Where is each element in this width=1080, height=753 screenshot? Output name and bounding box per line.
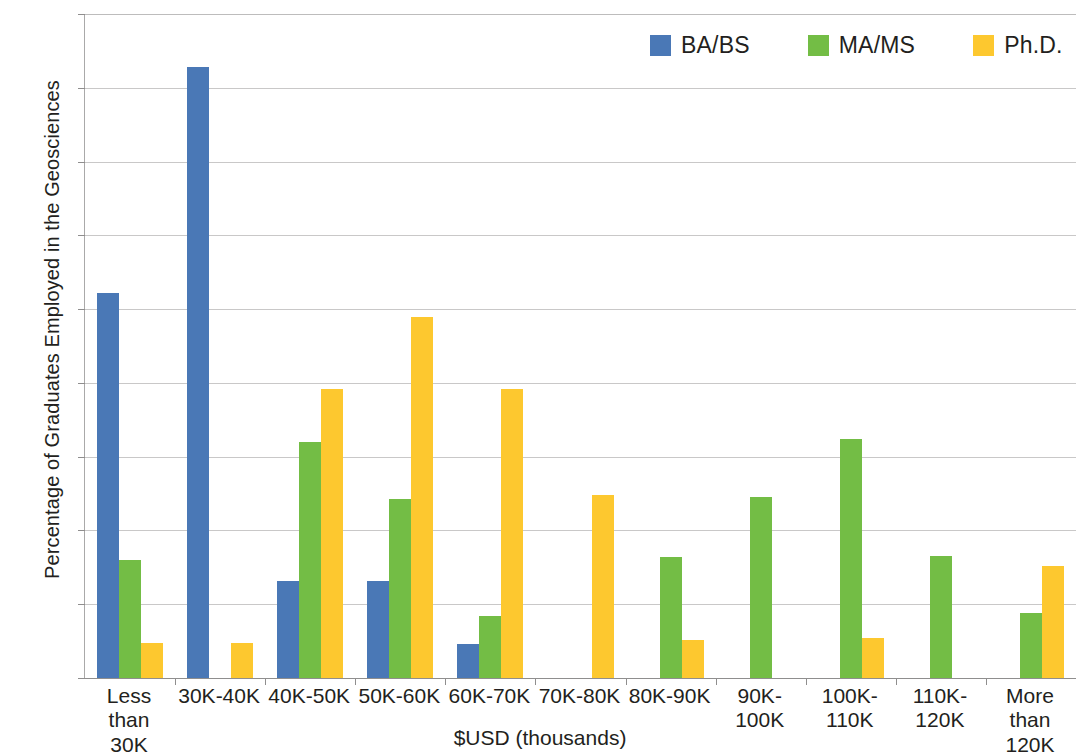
bar-group: [626, 14, 716, 678]
bar-slot: [660, 14, 682, 678]
legend-label: Ph.D.: [1004, 32, 1063, 59]
bar-slot: [389, 14, 411, 678]
y-tick-mark: [78, 14, 85, 15]
bar-group: [265, 14, 355, 678]
bar-slot: [548, 14, 570, 678]
legend-label: BA/BS: [681, 32, 750, 59]
bar-slot: [638, 14, 660, 678]
bar-slot: [728, 14, 750, 678]
bar-ma-ms[interactable]: [119, 560, 141, 678]
bar-slot: [1042, 14, 1064, 678]
bar-slots: [638, 14, 704, 678]
bar-slot: [908, 14, 930, 678]
bar-ma-ms[interactable]: [840, 439, 862, 678]
bar-ba-bs[interactable]: [187, 67, 209, 678]
bar-group: [445, 14, 535, 678]
bar-slot: [952, 14, 974, 678]
bar-slot: [299, 14, 321, 678]
bar-slot: [570, 14, 592, 678]
bar-slot: [141, 14, 163, 678]
y-axis-title: Percentage of Graduates Employed in the …: [41, 10, 64, 650]
bar-chart: BA/BSMA/MSPh.D. Percentage of Graduates …: [0, 0, 1080, 753]
x-axis-label-line: 110K-: [896, 684, 984, 708]
bar-slot: [1020, 14, 1042, 678]
bar-ph-d[interactable]: [141, 643, 163, 678]
bars-layer: [85, 14, 1076, 678]
bar-slot: [277, 14, 299, 678]
bar-slot: [862, 14, 884, 678]
legend-swatch-icon: [650, 35, 671, 56]
bar-ph-d[interactable]: [411, 317, 433, 679]
y-tick-mark: [78, 457, 85, 458]
bar-ba-bs[interactable]: [457, 644, 479, 678]
bar-slot: [231, 14, 253, 678]
bar-group: [355, 14, 445, 678]
bar-slot: [97, 14, 119, 678]
bar-ph-d[interactable]: [321, 389, 343, 678]
bar-ma-ms[interactable]: [930, 556, 952, 678]
bar-ma-ms[interactable]: [389, 499, 411, 678]
y-tick-mark: [78, 162, 85, 163]
bar-group: [896, 14, 986, 678]
bar-slot: [321, 14, 343, 678]
bar-slot: [479, 14, 501, 678]
bar-slot: [930, 14, 952, 678]
bar-slot: [119, 14, 141, 678]
y-tick-mark: [78, 383, 85, 384]
bar-slots: [818, 14, 884, 678]
bar-ma-ms[interactable]: [1020, 613, 1042, 678]
x-axis-label-line: 60K-70K: [445, 684, 533, 708]
bar-slots: [457, 14, 523, 678]
bar-slots: [908, 14, 974, 678]
bar-ba-bs[interactable]: [97, 293, 119, 678]
bar-ph-d[interactable]: [501, 389, 523, 678]
y-tick-mark: [78, 309, 85, 310]
bar-slots: [277, 14, 343, 678]
bar-group: [85, 14, 175, 678]
y-tick-mark: [78, 678, 85, 679]
bar-ma-ms[interactable]: [750, 497, 772, 678]
bar-ba-bs[interactable]: [367, 581, 389, 678]
bar-slots: [998, 14, 1064, 678]
bar-group: [535, 14, 625, 678]
bar-ph-d[interactable]: [1042, 566, 1064, 678]
bar-ma-ms[interactable]: [660, 557, 682, 678]
x-axis-label-line: 50K-60K: [355, 684, 443, 708]
y-tick-mark: [78, 530, 85, 531]
bar-ph-d[interactable]: [862, 638, 884, 678]
x-axis-label-line: 70K-80K: [535, 684, 623, 708]
bar-ph-d[interactable]: [592, 495, 614, 678]
bar-slots: [367, 14, 433, 678]
bar-slot: [501, 14, 523, 678]
bar-slot: [367, 14, 389, 678]
bar-ph-d[interactable]: [682, 640, 704, 678]
bar-slot: [750, 14, 772, 678]
plot-area: 0%5%10%15%20%25%30%35%40%45%: [84, 14, 1076, 679]
bar-slot: [682, 14, 704, 678]
bar-slot: [411, 14, 433, 678]
bar-slot: [772, 14, 794, 678]
bar-ph-d[interactable]: [231, 643, 253, 678]
legend-swatch-icon: [973, 35, 994, 56]
legend-entry-ba-bs[interactable]: BA/BS: [650, 32, 750, 59]
bar-ba-bs[interactable]: [277, 581, 299, 678]
bar-group: [716, 14, 806, 678]
bar-slot: [457, 14, 479, 678]
legend-entry-ph-d[interactable]: Ph.D.: [973, 32, 1063, 59]
bar-ma-ms[interactable]: [299, 442, 321, 678]
bar-group: [806, 14, 896, 678]
y-tick-mark: [78, 88, 85, 89]
bar-slot: [209, 14, 231, 678]
legend-entry-ma-ms[interactable]: MA/MS: [808, 32, 915, 59]
bar-group: [175, 14, 265, 678]
x-axis-label-line: 30K-40K: [175, 684, 263, 708]
bar-slot: [818, 14, 840, 678]
bar-slots: [187, 14, 253, 678]
y-tick-mark: [78, 235, 85, 236]
bar-ma-ms[interactable]: [479, 616, 501, 678]
bar-group: [986, 14, 1076, 678]
bar-slot: [592, 14, 614, 678]
x-axis-label-line: 40K-50K: [265, 684, 353, 708]
x-axis-label-line: 100K-: [806, 684, 894, 708]
bar-slots: [728, 14, 794, 678]
